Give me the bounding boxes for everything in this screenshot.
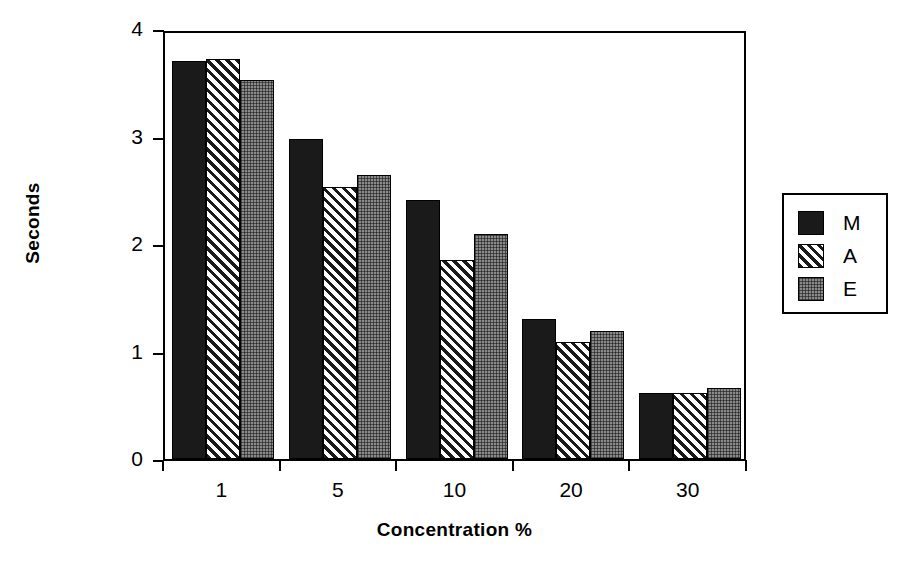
y-tick-label: 2 xyxy=(103,232,143,256)
x-tick-mark xyxy=(628,460,630,471)
legend-swatch-dots-icon xyxy=(798,277,824,301)
x-tick-mark xyxy=(512,460,514,471)
legend-label: E xyxy=(843,276,857,301)
y-tick-label: 1 xyxy=(103,340,143,364)
x-tick-label: 30 xyxy=(648,478,728,502)
y-tick-label: 3 xyxy=(103,125,143,149)
x-axis-title: Concentration % xyxy=(163,519,746,541)
y-tick-label: 0 xyxy=(103,447,143,471)
plot-area xyxy=(163,31,746,461)
legend-swatch-solid-icon xyxy=(798,211,824,235)
bar-M-30 xyxy=(639,393,673,459)
x-tick-mark xyxy=(745,460,747,471)
legend: MAE xyxy=(782,193,888,314)
bar-M-5 xyxy=(289,139,323,459)
bar-M-10 xyxy=(406,200,440,459)
x-tick-label: 20 xyxy=(531,478,611,502)
legend-item-E: E xyxy=(798,277,878,303)
legend-label: M xyxy=(843,210,861,235)
x-tick-mark xyxy=(395,460,397,471)
bar-chart-figure: Seconds 01234 15102030 Concentration % M… xyxy=(0,0,910,567)
bar-E-10 xyxy=(474,234,508,459)
x-tick-label: 1 xyxy=(181,478,261,502)
bar-E-30 xyxy=(707,388,741,459)
x-tick-label: 10 xyxy=(415,478,495,502)
y-tick-label: 4 xyxy=(103,17,143,41)
x-tick-mark xyxy=(279,460,281,471)
bar-A-30 xyxy=(673,393,707,459)
bar-E-20 xyxy=(590,331,624,459)
bar-E-5 xyxy=(357,175,391,459)
legend-item-M: M xyxy=(798,211,878,237)
legend-swatch-hatch-icon xyxy=(798,244,824,268)
bar-M-20 xyxy=(522,319,556,459)
bar-A-1 xyxy=(206,59,240,459)
x-tick-label: 5 xyxy=(298,478,378,502)
bar-A-5 xyxy=(323,187,357,459)
legend-label: A xyxy=(843,243,857,268)
y-axis-title: Seconds xyxy=(22,148,44,298)
x-tick-mark-origin xyxy=(162,460,164,471)
bar-M-1 xyxy=(172,61,206,459)
legend-item-A: A xyxy=(798,244,878,270)
bar-A-20 xyxy=(556,342,590,459)
bar-E-1 xyxy=(240,80,274,459)
bar-A-10 xyxy=(440,260,474,459)
